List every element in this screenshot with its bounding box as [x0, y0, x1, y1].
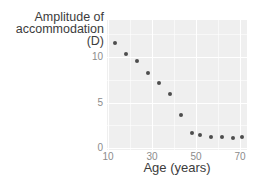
y-tick-label: 5	[63, 97, 103, 109]
y-tick-label: 10	[63, 51, 103, 63]
y-tick-label: 0	[63, 142, 103, 154]
y-gridline-major	[107, 103, 247, 104]
x-axis-title: Age (years)	[107, 160, 247, 175]
x-gridline-major	[108, 20, 109, 150]
data-point	[146, 71, 150, 75]
x-tick-label: 30	[146, 151, 157, 162]
y-gridline-major	[107, 148, 247, 149]
data-point	[231, 136, 235, 140]
x-gridline-minor	[174, 20, 175, 150]
data-point	[198, 133, 202, 137]
x-gridline-major	[196, 20, 197, 150]
y-gridline-minor	[107, 34, 247, 35]
y-gridline-minor	[107, 80, 247, 81]
x-tick-label: 10	[102, 151, 113, 162]
figure: Amplitude of accommodation (D) Age (year…	[0, 0, 253, 192]
x-gridline-major	[152, 20, 153, 150]
y-gridline-minor	[107, 125, 247, 126]
data-point	[168, 92, 172, 96]
plot-panel	[107, 20, 247, 150]
data-point	[220, 135, 224, 139]
data-point	[157, 81, 161, 85]
x-tick-label: 70	[234, 151, 245, 162]
y-axis-title-line-3: (D)	[0, 35, 104, 47]
y-axis-title: Amplitude of accommodation (D)	[0, 11, 104, 47]
data-point	[190, 131, 194, 135]
data-point	[135, 59, 139, 63]
data-point	[179, 113, 183, 117]
x-gridline-minor	[218, 20, 219, 150]
data-point	[240, 135, 244, 139]
data-point	[113, 41, 117, 45]
data-point	[124, 52, 128, 56]
x-gridline-minor	[130, 20, 131, 150]
data-point	[209, 135, 213, 139]
y-gridline-major	[107, 57, 247, 58]
x-tick-label: 50	[190, 151, 201, 162]
x-gridline-major	[240, 20, 241, 150]
